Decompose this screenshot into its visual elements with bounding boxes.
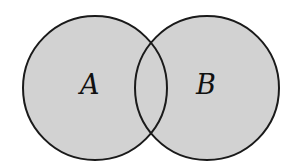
set-a-label: A bbox=[77, 69, 100, 100]
venn-diagram: A B bbox=[0, 0, 293, 165]
set-b-label: B bbox=[195, 69, 216, 100]
